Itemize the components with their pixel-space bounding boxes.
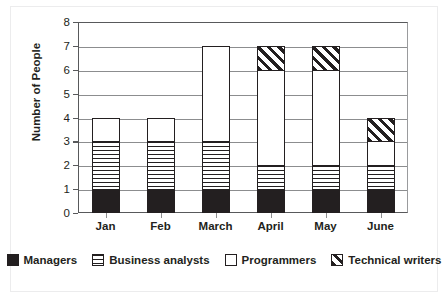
y-axis-tick-label: 4 — [46, 112, 70, 124]
bar-segment-business-analysts[interactable] — [367, 165, 395, 189]
legend-item-label: Business analysts — [109, 254, 209, 266]
stacked-bar[interactable] — [92, 118, 120, 214]
bar-segment-managers[interactable] — [312, 189, 340, 213]
legend-item[interactable]: Business analysts — [92, 254, 209, 266]
y-axis-tick-label: 1 — [46, 183, 70, 195]
y-axis-tick — [73, 189, 78, 190]
empty-square-swatch — [225, 254, 237, 266]
y-axis-tick — [73, 118, 78, 119]
y-axis-tick — [73, 94, 78, 95]
stacked-bar[interactable] — [257, 46, 285, 213]
chart-legend: ManagersBusiness analystsProgrammersTech… — [0, 254, 448, 266]
bar-segment-technical-writers[interactable] — [367, 118, 395, 142]
stacked-bar-chart-figure: Number of People 012345678 JanFebMarchAp… — [0, 0, 448, 303]
gridline — [79, 47, 407, 48]
y-axis-tick-label: 7 — [46, 40, 70, 52]
y-axis-tick — [73, 70, 78, 71]
gridline — [79, 119, 407, 120]
x-axis-tick-label: March — [199, 220, 233, 232]
y-axis-tick — [73, 46, 78, 47]
solid-square-swatch — [7, 254, 19, 266]
bar-segment-programmers[interactable] — [257, 70, 285, 166]
hatched-square-swatch — [331, 254, 343, 266]
stacked-bar[interactable] — [367, 118, 395, 214]
x-axis-tick-label: Jan — [96, 220, 116, 232]
bar-segment-business-analysts[interactable] — [147, 141, 175, 189]
stacked-bar[interactable] — [312, 46, 340, 213]
bar-segment-managers[interactable] — [147, 189, 175, 213]
bar-segment-technical-writers[interactable] — [312, 46, 340, 70]
legend-item[interactable]: Technical writers — [331, 254, 441, 266]
x-axis-tick-label: June — [367, 220, 394, 232]
plot-area — [78, 22, 408, 213]
x-axis-tick — [271, 213, 272, 218]
bar-segment-technical-writers[interactable] — [257, 46, 285, 70]
x-axis-tick — [106, 213, 107, 218]
legend-item[interactable]: Managers — [7, 254, 78, 266]
x-axis-tick — [326, 213, 327, 218]
bar-segment-programmers[interactable] — [147, 118, 175, 142]
gridline — [79, 95, 407, 96]
x-axis-tick-label: Feb — [150, 220, 170, 232]
bar-segment-business-analysts[interactable] — [202, 141, 230, 189]
y-axis-tick — [73, 141, 78, 142]
legend-item[interactable]: Programmers — [225, 254, 317, 266]
y-axis-tick-label: 5 — [46, 88, 70, 100]
legend-item-label: Programmers — [242, 254, 317, 266]
legend-item-label: Technical writers — [348, 254, 441, 266]
bar-segment-programmers[interactable] — [92, 118, 120, 142]
y-axis-tick — [73, 213, 78, 214]
bar-segment-programmers[interactable] — [202, 46, 230, 142]
bar-segment-business-analysts[interactable] — [312, 165, 340, 189]
x-axis-tick — [216, 213, 217, 218]
bar-segment-managers[interactable] — [257, 189, 285, 213]
legend-item-label: Managers — [24, 254, 78, 266]
y-axis-title: Number of People — [30, 12, 42, 172]
y-axis-tick-label: 2 — [46, 159, 70, 171]
y-axis-tick-label: 6 — [46, 64, 70, 76]
y-axis-tick-label: 8 — [46, 16, 70, 28]
gridline — [79, 190, 407, 191]
bar-segment-managers[interactable] — [202, 189, 230, 213]
y-axis-tick — [73, 165, 78, 166]
stacked-bar[interactable] — [202, 46, 230, 213]
bar-segment-business-analysts[interactable] — [257, 165, 285, 189]
gridline — [79, 166, 407, 167]
x-axis-tick-label: May — [314, 220, 336, 232]
x-axis-tick — [381, 213, 382, 218]
x-axis-tick-label: April — [257, 220, 283, 232]
gridline — [79, 142, 407, 143]
bar-segment-business-analysts[interactable] — [92, 141, 120, 189]
bar-segment-managers[interactable] — [92, 189, 120, 213]
bar-segment-programmers[interactable] — [367, 141, 395, 165]
striped-square-swatch — [92, 254, 104, 266]
gridline — [79, 71, 407, 72]
bar-segment-programmers[interactable] — [312, 70, 340, 166]
x-axis-tick — [161, 213, 162, 218]
stacked-bar[interactable] — [147, 118, 175, 214]
bar-segment-managers[interactable] — [367, 189, 395, 213]
y-axis-tick — [73, 22, 78, 23]
y-axis-tick-label: 0 — [46, 207, 70, 219]
y-axis-tick-label: 3 — [46, 135, 70, 147]
